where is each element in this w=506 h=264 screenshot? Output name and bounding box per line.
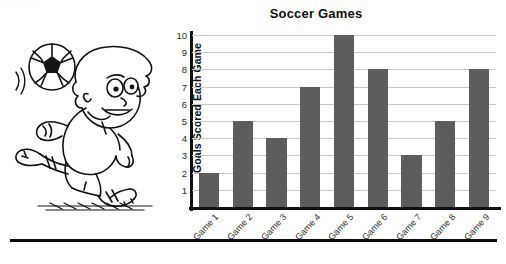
x-axis-tick-label: Game 6 — [360, 212, 389, 242]
x-axis-tick-label: Game 5 — [327, 212, 356, 242]
x-axis-tick-label: Game 4 — [293, 212, 322, 242]
y-axis-tick-label: 4 — [182, 133, 187, 144]
plot-area: 12345678910 Game 1Game 2Game 3Game 4Game… — [192, 35, 496, 207]
bar — [199, 173, 219, 207]
y-axis-tick-label: 8 — [182, 64, 187, 75]
player-head — [73, 47, 152, 129]
motion-lines — [16, 68, 25, 94]
y-axis-tick-label: 5 — [182, 116, 187, 127]
y-axis-tick-label: 7 — [182, 81, 187, 92]
x-axis-line — [189, 207, 501, 210]
bar-chart: Soccer Games Goals Scored Each Game 1234… — [166, 2, 504, 252]
soccer-player-illustration — [2, 16, 164, 212]
bar — [368, 69, 388, 207]
soccer-ball-icon — [29, 44, 75, 90]
y-axis-tick-label: 6 — [182, 98, 187, 109]
bar — [233, 121, 253, 207]
bar — [334, 35, 354, 207]
bar — [469, 69, 489, 207]
y-axis-tick-label: 3 — [182, 150, 187, 161]
ground-shadow — [38, 203, 152, 210]
y-axis-tick-label: 2 — [182, 167, 187, 178]
x-axis-tick-label: Game 2 — [225, 212, 254, 242]
bar — [266, 138, 286, 207]
chart-title: Soccer Games — [166, 6, 466, 21]
x-axis-tick-label: Game 9 — [462, 212, 491, 242]
y-axis-tick-label: 10 — [176, 30, 187, 41]
y-axis-tick-label: 9 — [182, 47, 187, 58]
player-standing-leg — [98, 189, 136, 206]
y-axis-tick-label: 1 — [182, 184, 187, 195]
player-kicking-leg — [16, 149, 68, 174]
x-axis-tick-label: Game 3 — [259, 212, 288, 242]
x-axis-tick-label: Game 1 — [192, 212, 221, 242]
x-axis-tick-label: Game 7 — [394, 212, 423, 242]
bar — [300, 87, 320, 207]
bar — [435, 121, 455, 207]
x-axis-tick-label: Game 8 — [428, 212, 457, 242]
player-body — [63, 108, 120, 175]
bar — [401, 155, 421, 207]
bottom-rule — [10, 239, 497, 242]
